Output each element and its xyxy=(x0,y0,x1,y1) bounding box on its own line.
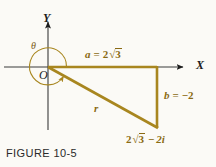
label-imaginary-part-equals: = xyxy=(173,89,179,101)
label-imaginary-part: b=−2 xyxy=(164,90,194,101)
y-axis-label: Y xyxy=(43,12,50,24)
complex-imaginary-term: 2i xyxy=(156,133,165,145)
figure-drawing xyxy=(0,0,216,167)
x-axis-label: X xyxy=(196,59,204,71)
radical-group-2: √3 xyxy=(132,133,146,146)
label-complex-number: 2√3−2i xyxy=(126,133,165,146)
angle-theta-label: θ xyxy=(31,41,36,51)
origin-label: O xyxy=(39,69,48,81)
complex-operator: − xyxy=(148,133,154,145)
complex-radicand: 3 xyxy=(139,133,146,146)
radical-group: √3 xyxy=(108,48,122,61)
figure-caption: FIGURE 10-5 xyxy=(6,147,77,159)
segment-r xyxy=(48,67,158,128)
label-modulus: r xyxy=(94,103,98,114)
figure-complex-plane: Y X O θ a=2√3 b=−2 r 2√3−2i FIGURE 10-5 xyxy=(0,0,216,167)
label-real-part-name: a xyxy=(85,48,91,60)
label-real-part-equals: = xyxy=(94,48,100,60)
label-imaginary-part-value: −2 xyxy=(182,89,194,101)
label-real-part-radicand: 3 xyxy=(115,48,122,61)
label-real-part: a=2√3 xyxy=(85,48,122,61)
label-imaginary-part-name: b xyxy=(164,89,170,101)
